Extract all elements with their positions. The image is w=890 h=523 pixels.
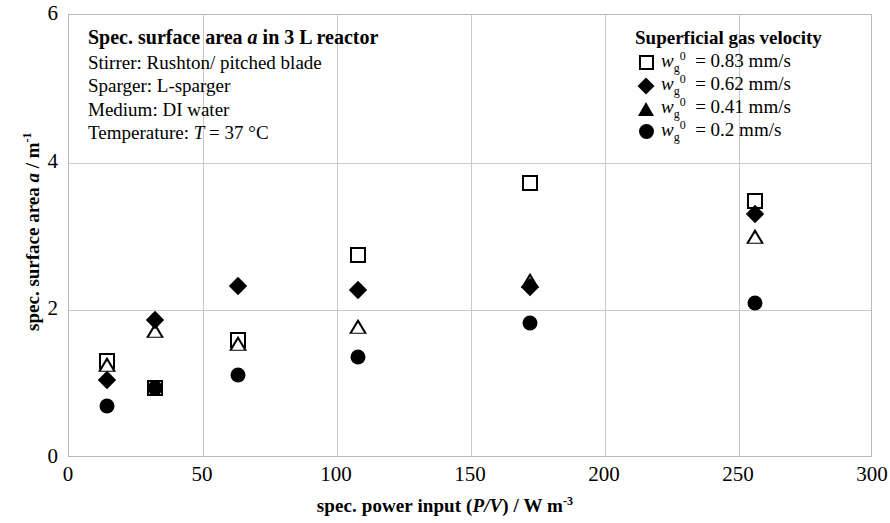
x-tick-label: 300 [842, 464, 890, 485]
x-tick-label: 200 [574, 464, 634, 485]
caption-line-stirrer: Stirrer: Rushton/ pitched blade [88, 51, 378, 75]
data-point-filled-circle [99, 399, 114, 414]
caption-block: Spec. surface area a in 3 L reactor Stir… [88, 26, 378, 145]
data-point-filled-circle [147, 380, 162, 395]
data-point-open-square [350, 247, 366, 263]
caption-title: Spec. surface area a in 3 L reactor [88, 26, 378, 50]
data-point-open-square [522, 175, 538, 191]
chart-figure: 0246 spec. surface area a / m-1 05010015… [0, 0, 890, 523]
gridline-horizontal [69, 163, 871, 164]
data-point-filled-circle [639, 124, 654, 139]
legend-item-label: wg0 = 0.2 mm/s [661, 114, 781, 149]
x-tick-label: 0 [38, 464, 98, 485]
data-point-open-triangle [349, 319, 367, 334]
data-point-filled-circle [351, 349, 366, 364]
x-tick-label: 150 [440, 464, 500, 485]
x-tick-label: 50 [172, 464, 232, 485]
gridline-vertical [471, 15, 472, 456]
caption-line-medium: Medium: DI water [88, 98, 378, 122]
data-point-filled-diamond [349, 280, 367, 298]
data-point-filled-circle [522, 315, 537, 330]
data-point-filled-diamond [97, 371, 115, 389]
data-point-open-square [639, 55, 654, 70]
legend: Superficial gas velocity wg0 = 0.83 mm/s… [633, 26, 822, 143]
data-point-filled-circle [230, 368, 245, 383]
legend-rows: wg0 = 0.83 mm/swg0 = 0.62 mm/swg0 = 0.41… [633, 51, 822, 143]
x-axis-title: spec. power input (P/V) / W m-3 [0, 494, 890, 517]
legend-marker-filled-diamond-icon [633, 80, 659, 92]
data-point-open-triangle [638, 102, 654, 116]
legend-marker-filled-circle-icon [633, 124, 659, 139]
legend-item: wg0 = 0.2 mm/s [633, 120, 822, 143]
gridline-horizontal [69, 310, 871, 311]
data-point-filled-diamond [229, 277, 247, 295]
data-point-open-triangle [229, 335, 247, 350]
caption-line-temperature: Temperature: T = 37 °C [88, 121, 378, 145]
legend-marker-open-square-icon [633, 55, 659, 70]
x-tick-label: 250 [708, 464, 768, 485]
caption-line-sparger: Sparger: L-sparger [88, 74, 378, 98]
gridline-vertical [605, 15, 606, 456]
x-tick-label: 100 [306, 464, 366, 485]
y-axis-title: spec. surface area a / m-1 [20, 12, 43, 452]
data-point-filled-circle [748, 295, 763, 310]
data-point-filled-diamond [638, 77, 655, 94]
data-point-open-triangle [746, 228, 764, 243]
legend-marker-open-triangle-icon [633, 102, 659, 116]
